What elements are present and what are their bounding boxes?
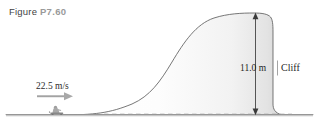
figure-caption-number: P7.60 — [40, 6, 66, 17]
cliff-label: Cliff — [281, 62, 300, 73]
height-label: 11.0 m — [240, 63, 266, 73]
figure-caption: Figure P7.60 — [9, 6, 66, 17]
physics-figure: Figure P7.60 22.5 m/s 11.0 m Cliff — [0, 0, 319, 134]
sled-rider-icon — [49, 106, 63, 115]
figure-illustration — [0, 0, 319, 134]
velocity-arrow-icon — [37, 92, 73, 100]
speed-label: 22.5 m/s — [36, 81, 69, 91]
figure-caption-word: Figure — [9, 6, 37, 17]
